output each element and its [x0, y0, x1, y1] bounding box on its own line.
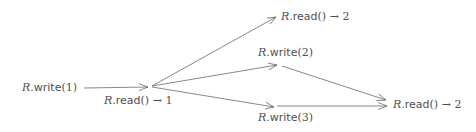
operation-result: → 2 [438, 98, 461, 111]
operation-args: () [141, 94, 150, 107]
node-r1: R.read() → 1 [104, 95, 172, 107]
operation-name: write [270, 111, 298, 124]
edge-arrow-w2-to-r2b [282, 66, 386, 100]
operation-args: (2) [297, 46, 313, 59]
edges-layer [0, 0, 476, 132]
diagram-canvas: R.write(1) R.read() → 1 R.read() → 2 R.w… [0, 0, 476, 132]
operation-result: → 2 [326, 10, 349, 23]
node-w2: R.write(2) [258, 47, 313, 59]
operation-args: (3) [297, 111, 313, 124]
node-r2a: R.read() → 2 [281, 11, 349, 23]
operation-args: (1) [61, 81, 77, 94]
operation-name: write [34, 81, 62, 94]
node-r2b: R.read() → 2 [393, 99, 461, 111]
operation-args: () [430, 98, 439, 111]
operation-name: read [116, 94, 141, 107]
node-w1: R.write(1) [22, 82, 77, 94]
operation-result: → 1 [149, 94, 172, 107]
operation-name: write [270, 46, 298, 59]
operation-args: () [318, 10, 327, 23]
edge-arrow-w1-to-r1 [84, 87, 148, 88]
operation-name: read [405, 98, 430, 111]
operation-name: read [293, 10, 318, 23]
node-w3: R.write(3) [258, 112, 313, 124]
